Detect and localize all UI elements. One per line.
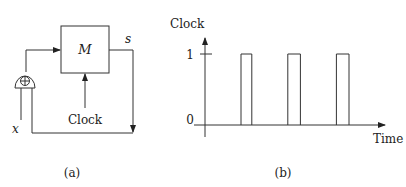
y-axis-label: Clock: [170, 17, 205, 31]
panel-a: M x s Clock (a): [12, 26, 133, 180]
clock-pulse-1: [241, 54, 252, 125]
y-tick-label-0: 0: [186, 113, 194, 127]
input-arrow: [26, 50, 60, 72]
output-arrow: [109, 50, 133, 132]
panel-b: Clock 1 0 Time (b): [170, 17, 403, 180]
y-tick-label-1: 1: [186, 48, 194, 62]
x-axis-label: Time: [373, 132, 403, 146]
output-label: s: [125, 32, 131, 46]
input-label: x: [12, 122, 19, 136]
clock-pulse-2: [288, 54, 301, 125]
figure-canvas: M x s Clock (a) Clock 1 0 Time (b): [0, 0, 406, 187]
machine-label: M: [77, 42, 92, 57]
clock-pulse-3: [336, 54, 349, 125]
clock-pulses: [241, 54, 349, 125]
caption-a: (a): [64, 166, 81, 180]
caption-b: (b): [274, 166, 291, 180]
clock-label: Clock: [68, 113, 103, 127]
